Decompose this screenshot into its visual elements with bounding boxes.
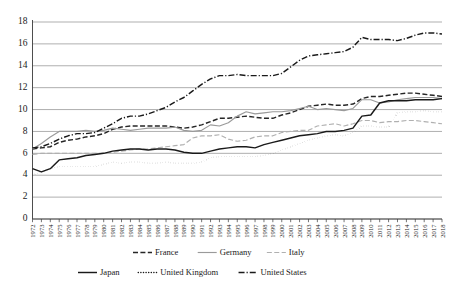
x-axis-tick-label: 1990 [189,224,196,238]
x-axis-tick-label: 1985 [145,224,152,238]
x-axis-tick-label: 1981 [109,225,116,238]
y-axis-tick-label: 12 [18,82,28,92]
gridlines [33,22,443,219]
x-axis-tick-label: 2016 [421,224,428,238]
x-axis-tick-label: 2018 [439,224,446,238]
x-axis-tick-label: 1976 [65,224,72,238]
x-axis-tick-label: 2000 [278,224,285,238]
y-axis-tick-label: 16 [18,38,28,48]
x-axis-tick-label: 1988 [172,224,179,238]
x-axis-tick-label: 2003 [305,224,312,238]
series-line-france [33,93,443,149]
x-axis-tick-label: 1992 [207,225,214,238]
y-axis-tick-label: 6 [23,148,28,158]
x-axis-tick-label: 1989 [180,224,187,238]
data-series-group [33,33,443,175]
chart-legend: FranceGermanyItalyJapanUnited KingdomUni… [78,247,307,277]
x-axis-tick-label: 1979 [91,224,98,238]
x-axis-tick-label: 1993 [216,224,223,238]
x-axis-tick-label: 1982 [118,225,125,238]
x-axis-tick-label: 1974 [47,224,54,238]
x-axis-tick-label: 1987 [163,224,170,238]
x-axis-tick-labels: 1972197319741975197619771978197919801981… [29,224,446,238]
x-axis-tick-label: 2011 [376,225,383,238]
y-axis-tick-labels: 024681012141618 [18,16,28,223]
y-axis-tick-label: 4 [23,169,28,179]
x-axis-tick-label: 2002 [296,225,303,238]
x-axis-tick-label: 1997 [252,224,259,238]
x-axis-tick-label: 1977 [74,224,81,238]
x-axis-tick-label: 2006 [332,224,339,238]
chart-canvas: 024681012141618 197219731974197519761977… [0,0,457,294]
x-axis-tick-label: 1983 [127,224,134,238]
x-axis-tick-label: 2007 [341,224,348,238]
x-axis-tick-label: 1995 [234,224,241,238]
x-axis-tick-marks [33,219,443,222]
legend-label-germany: Germany [220,247,253,257]
y-axis-tick-label: 18 [18,16,28,26]
x-axis-tick-label: 2013 [394,224,401,238]
legend-label-japan: Japan [100,267,120,277]
x-axis-tick-label: 2010 [367,224,374,238]
x-axis-tick-label: 2012 [385,225,392,238]
x-axis-tick-label: 1999 [269,224,276,238]
x-axis-tick-label: 2017 [430,224,437,238]
series-line-united-states [33,33,443,148]
x-axis-tick-label: 2005 [323,224,330,238]
y-axis-tick-label: 2 [23,191,28,201]
legend-label-united-states: United States [261,267,308,277]
x-axis-tick-label: 1991 [198,225,205,238]
x-axis-tick-label: 1975 [56,224,63,238]
legend-label-united-kingdom: United Kingdom [160,267,218,277]
x-axis-tick-label: 1972 [29,225,36,238]
series-line-italy [33,121,443,155]
legend-label-france: France [155,247,179,257]
x-axis-tick-label: 2009 [358,224,365,238]
x-axis-tick-label: 1978 [83,224,90,238]
x-axis-tick-label: 1973 [38,224,45,238]
y-axis-tick-label: 8 [23,126,28,136]
x-axis-tick-label: 2008 [350,224,357,238]
x-axis-tick-label: 1986 [154,224,161,238]
y-axis-tick-label: 10 [18,104,28,114]
x-axis-tick-label: 2004 [314,224,321,238]
x-axis-tick-label: 1980 [100,224,107,238]
line-chart: 024681012141618 197219731974197519761977… [0,0,457,294]
legend-label-italy: Italy [289,247,305,257]
series-line-united-kingdom [33,111,443,176]
y-axis-tick-label: 0 [23,213,28,223]
x-axis-tick-label: 2015 [412,224,419,238]
x-axis-tick-label: 2014 [403,224,410,238]
x-axis-tick-label: 1994 [225,224,232,238]
x-axis-tick-label: 1984 [136,224,143,238]
y-axis-tick-label: 14 [18,60,28,70]
x-axis-tick-label: 1996 [243,224,250,238]
x-axis-tick-label: 1998 [261,224,268,238]
x-axis-tick-label: 2001 [287,225,294,238]
